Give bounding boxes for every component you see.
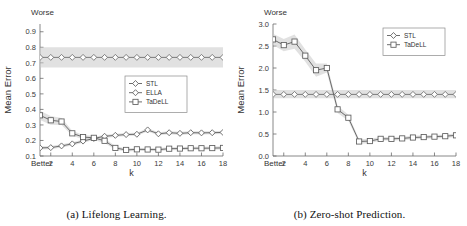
- x-tick-label: 4: [303, 159, 307, 168]
- chart-legend[interactable]: STLELLATaDeLL: [125, 76, 187, 113]
- panel-zero-shot-prediction: 0.00.51.01.52.02.53.024681012141618kMean…: [233, 0, 466, 226]
- series-marker-tadell: [37, 113, 42, 118]
- series-marker-tadell: [167, 146, 172, 151]
- figure-container: 0.10.20.30.40.50.60.70.80.92468101214161…: [0, 0, 467, 226]
- y-tick-label: 1.5: [259, 86, 269, 95]
- series-marker-tadell: [199, 146, 204, 151]
- caption-a: (a) Lifelong Learning.: [0, 208, 233, 220]
- x-tick-label: 8: [113, 159, 117, 168]
- series-marker-tadell: [389, 136, 394, 141]
- x-tick-label: 12: [387, 159, 395, 168]
- legend-label-tadell: TaDeLL: [404, 41, 427, 48]
- legend-marker-tadell: [391, 42, 396, 47]
- chart-legend[interactable]: STLTaDeLL: [383, 28, 445, 55]
- series-marker-tadell: [59, 119, 64, 124]
- series-marker-ella: [199, 130, 205, 136]
- series-marker-tadell: [292, 39, 297, 44]
- series-marker-tadell: [48, 118, 53, 123]
- x-tick-label: 8: [346, 159, 350, 168]
- y-tick-label: 0.6: [26, 74, 36, 83]
- series-marker-tadell: [324, 65, 329, 70]
- y-tick-label: 0.5: [26, 90, 36, 99]
- y-tick-label: 0.5: [259, 130, 269, 139]
- x-tick-label: 18: [219, 159, 227, 168]
- series-marker-ella: [166, 130, 172, 136]
- plot-area-a: 0.10.20.30.40.50.60.70.80.92468101214161…: [0, 0, 233, 190]
- y-tick-label: 2.5: [259, 42, 269, 51]
- series-marker-tadell: [378, 136, 383, 141]
- series-marker-tadell: [134, 147, 139, 152]
- x-axis-label: k: [362, 168, 367, 178]
- series-marker-tadell: [346, 115, 351, 120]
- series-marker-tadell: [102, 138, 107, 143]
- y-tick-label: 0.4: [26, 105, 36, 114]
- series-marker-tadell: [400, 136, 405, 141]
- x-tick-label: 10: [133, 159, 141, 168]
- series-marker-tadell: [188, 146, 193, 151]
- series-marker-ella: [37, 145, 43, 151]
- series-marker-tadell: [281, 43, 286, 48]
- series-marker-tadell: [453, 133, 458, 138]
- x-tick-label: 6: [325, 159, 329, 168]
- series-marker-tadell: [210, 145, 215, 150]
- legend-label-stl: STL: [404, 32, 416, 39]
- series-marker-ella: [123, 132, 129, 138]
- x-axis-ticks: 24681012141618: [282, 153, 460, 168]
- series-marker-tadell: [220, 145, 225, 150]
- legend-marker-tadell: [133, 99, 138, 104]
- x-tick-label: 4: [70, 159, 74, 168]
- series-marker-tadell: [177, 146, 182, 151]
- x-tick-label: 16: [197, 159, 205, 168]
- series-marker-ella: [177, 130, 183, 136]
- series-marker-tadell: [313, 68, 318, 73]
- x-tick-label: 14: [409, 159, 417, 168]
- series-marker-ella: [220, 129, 226, 135]
- series-marker-ella: [209, 130, 215, 136]
- confidence-band: [40, 128, 223, 149]
- series-marker-tadell: [410, 135, 415, 140]
- series-marker-tadell: [124, 147, 129, 152]
- series-marker-ella: [48, 145, 54, 151]
- legend-label-stl: STL: [146, 80, 158, 87]
- series-marker-tadell: [70, 131, 75, 136]
- series-marker-tadell: [357, 139, 362, 144]
- x-tick-label: 16: [430, 159, 438, 168]
- series-marker-ella: [112, 132, 118, 138]
- y-tick-label: 0.9: [26, 27, 36, 36]
- x-axis-ticks: 24681012141618: [49, 153, 227, 168]
- y-tick-label: 0.3: [26, 121, 36, 130]
- annotation-worse: Worse: [31, 8, 55, 17]
- series-marker-tadell: [335, 107, 340, 112]
- y-tick-label: 1.0: [259, 108, 269, 117]
- legend-label-tadell: TaDeLL: [146, 98, 169, 105]
- series-marker-tadell: [443, 134, 448, 139]
- series-line-ella: [40, 130, 223, 148]
- legend-label-ella: ELLA: [146, 89, 163, 96]
- series-marker-tadell: [303, 53, 308, 58]
- series-marker-tadell: [156, 147, 161, 152]
- y-tick-label: 3.0: [259, 20, 269, 29]
- panel-lifelong-learning: 0.10.20.30.40.50.60.70.80.92468101214161…: [0, 0, 233, 226]
- series-marker-tadell: [91, 135, 96, 140]
- x-tick-label: 10: [366, 159, 374, 168]
- y-tick-label: 0.2: [26, 136, 36, 145]
- x-tick-label: 12: [154, 159, 162, 168]
- series-marker-tadell: [80, 134, 85, 139]
- chart-a: 0.10.20.30.40.50.60.70.80.92468101214161…: [0, 0, 233, 190]
- series-marker-tadell: [367, 138, 372, 143]
- series-marker-tadell: [421, 134, 426, 139]
- x-tick-label: 18: [452, 159, 460, 168]
- series-marker-ella: [59, 143, 65, 149]
- annotation-better: Better: [264, 159, 286, 168]
- series-marker-tadell: [270, 37, 275, 42]
- y-tick-label: 0.8: [26, 43, 36, 52]
- y-tick-label: 0.7: [26, 59, 36, 68]
- series-marker-ella: [69, 141, 75, 147]
- chart-b: 0.00.51.01.52.02.53.024681012141618kMean…: [233, 0, 466, 190]
- annotation-worse: Worse: [264, 8, 288, 17]
- y-axis-label: Mean Error: [235, 66, 246, 114]
- x-tick-label: 6: [92, 159, 96, 168]
- x-axis-label: k: [129, 168, 134, 178]
- caption-b: (b) Zero-shot Prediction.: [233, 208, 466, 220]
- x-tick-label: 14: [176, 159, 184, 168]
